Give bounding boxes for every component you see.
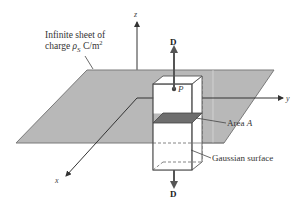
y-axis-label: y <box>285 94 290 103</box>
point-p-label: P <box>177 84 184 94</box>
z-axis-label: z <box>133 10 138 19</box>
sheet-label-line1: Infinite sheet of <box>45 30 106 40</box>
d-top-label: D <box>170 37 177 47</box>
sheet-label-line2: charge ρS C/m2 <box>45 39 103 54</box>
gaussian-sheet-diagram: Infinite sheet of charge ρS C/m2 z y x P… <box>0 0 299 199</box>
d-bottom-label: D <box>170 189 177 199</box>
charge-sheet-plane <box>16 70 274 143</box>
sheet-leader-line <box>85 56 93 69</box>
x-axis-label: x <box>54 176 59 185</box>
gaussian-surface-label: Gaussian surface <box>212 153 273 163</box>
area-a-label: Area A <box>227 118 253 128</box>
